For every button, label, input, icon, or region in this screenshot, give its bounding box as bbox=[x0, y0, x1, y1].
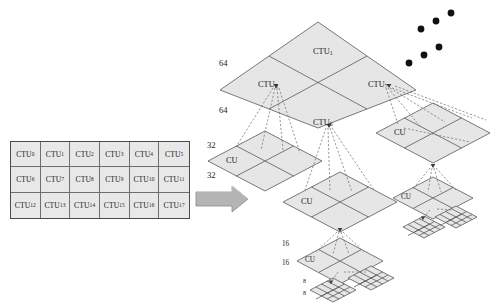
diagram-canvas: CTU0CTU1CTU2CTU3CTU4CTU5CTU6CTU7CTU8CTU9… bbox=[0, 0, 493, 305]
level0-ctu-plane bbox=[220, 22, 416, 128]
dim-64-top: 64 bbox=[219, 58, 228, 68]
dim-64-bottom: 64 bbox=[219, 105, 228, 115]
dim-8-top: 8 bbox=[303, 278, 306, 284]
level1-right-label-cu: CU bbox=[394, 128, 406, 137]
dim-16-bottom: 16 bbox=[282, 259, 289, 267]
ellipsis-lower bbox=[406, 44, 443, 67]
level0-label-ctu0: CTU0 bbox=[258, 80, 278, 89]
level2-right-label-cu: CU bbox=[401, 193, 411, 201]
level0-label-ctu7: CTU7 bbox=[368, 80, 388, 89]
level0-label-ctu1: CTU1 bbox=[313, 47, 333, 56]
dim-8-bottom: 8 bbox=[303, 290, 306, 296]
ellipsis-upper bbox=[418, 10, 455, 33]
quadtree-scene: .blk{fill:#e6e6e6;stroke:#595959;stroke-… bbox=[0, 0, 493, 305]
level1-left-label-cu: CU bbox=[226, 156, 238, 165]
dim-16-top: 16 bbox=[282, 240, 289, 248]
dim-32-top: 32 bbox=[207, 140, 216, 150]
level0-label-ctu6: CTU6 bbox=[313, 118, 333, 127]
transition-arrow-icon bbox=[196, 186, 248, 212]
dim-32-bottom: 32 bbox=[207, 170, 216, 180]
level1-center-label-cu: CU bbox=[301, 197, 313, 206]
level2-center-label-cu: CU bbox=[305, 256, 315, 264]
level3-center-left-cluster bbox=[310, 278, 356, 302]
